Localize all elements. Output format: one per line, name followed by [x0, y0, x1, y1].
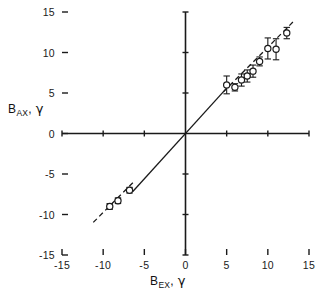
y-axis-title: BAX, γ	[8, 101, 44, 118]
data-point-marker	[244, 73, 250, 79]
solid-reference-line	[133, 88, 227, 191]
x-tick-label: -10	[95, 259, 111, 271]
data-point-marker	[257, 58, 263, 64]
x-axis-title-comma: ,	[170, 274, 177, 288]
data-point-marker	[107, 203, 113, 209]
scatter-plot-figure: 151050-5-10-15-15-10-5051015 BAX, γ BEX,…	[0, 0, 316, 295]
data-point-marker	[232, 84, 238, 90]
data-point-marker	[273, 46, 279, 52]
y-tick-label: 10	[22, 47, 55, 59]
x-axis-title-unit: γ	[178, 273, 186, 288]
x-axis-title-sub: EX	[158, 280, 170, 290]
x-tick-label: -5	[139, 259, 149, 271]
y-axis-title-sub: AX	[16, 108, 28, 118]
y-tick-label: 15	[22, 6, 55, 18]
x-axis-title: BEX, γ	[150, 273, 186, 290]
x-tick-label: 0	[182, 259, 188, 271]
fit-lines	[93, 21, 294, 223]
data-point-marker	[284, 30, 290, 36]
y-tick-label: -10	[22, 209, 55, 221]
y-axis-title-unit: γ	[36, 101, 44, 116]
x-tick-label: 5	[224, 259, 230, 271]
data-point-marker	[265, 45, 271, 51]
data-point-marker	[238, 77, 244, 83]
data-point-marker	[126, 187, 132, 193]
y-axis-title-comma: ,	[28, 102, 35, 116]
data-point-marker	[250, 68, 256, 74]
data-point-marker	[115, 198, 121, 204]
y-tick-label: 5	[22, 87, 55, 99]
y-tick-label: -15	[22, 249, 55, 261]
x-tick-label: 10	[262, 259, 274, 271]
x-tick-label: 15	[303, 259, 315, 271]
data-point-marker	[224, 82, 230, 88]
error-bars	[107, 27, 290, 209]
y-tick-label: -5	[22, 168, 55, 180]
y-tick-label: 0	[22, 128, 55, 140]
x-tick-label: -15	[54, 259, 70, 271]
